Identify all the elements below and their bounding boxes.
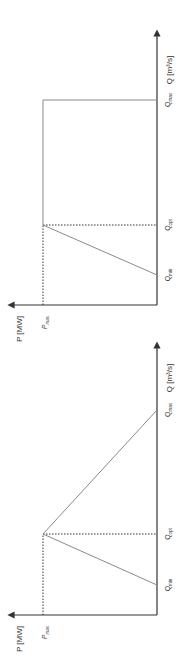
pmax-label: Pmax bbox=[41, 315, 50, 329]
p-axis-label: P [MW] bbox=[15, 316, 24, 342]
diagram-canvas: P [MW] Pmax Q [m³/s] Qmin Qopt Qmax P [M… bbox=[0, 0, 185, 671]
q-axis-label: Q [m³/s] bbox=[165, 364, 174, 392]
chart-bottom: P [MW] Pmax Q [m³/s] Qmin Qopt Qmax bbox=[11, 345, 174, 652]
q-axis-label: Q [m³/s] bbox=[165, 56, 174, 84]
power-curve bbox=[43, 410, 157, 585]
qopt-label: Qopt bbox=[164, 527, 173, 539]
chart-top: P [MW] Pmax Q [m³/s] Qmin Qopt Qmax bbox=[11, 33, 174, 342]
qmin-label: Qmin bbox=[164, 268, 173, 281]
qmax-label: Qmax bbox=[164, 402, 173, 417]
power-curve bbox=[43, 100, 157, 275]
pmax-label: Pmax bbox=[41, 625, 50, 639]
p-axis-label: P [MW] bbox=[15, 626, 24, 652]
qmax-label: Qmax bbox=[164, 92, 173, 107]
qmin-label: Qmin bbox=[164, 578, 173, 591]
qopt-label: Qopt bbox=[164, 218, 173, 230]
